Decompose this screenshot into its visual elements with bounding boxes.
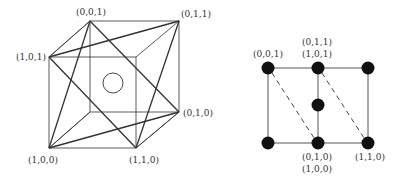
dot: [312, 137, 325, 150]
label-100: (1,0,0): [28, 155, 58, 165]
diagonal-line: [49, 21, 179, 57]
dot: [362, 137, 375, 150]
label-bottom-mid-2: (1,0,0): [302, 164, 332, 174]
label-010: (0,1,0): [183, 108, 213, 118]
cube-diagram: [49, 21, 179, 148]
dashed-diagonal: [322, 73, 364, 138]
diagonal-line: [49, 21, 90, 148]
label-011: (0,1,1): [181, 9, 211, 19]
label-top-mid-1: (0,1,1): [302, 37, 332, 47]
label-bottom-mid-1: (0,1,0): [302, 152, 332, 162]
dashed-diagonal: [272, 73, 314, 138]
label-101: (1,0,1): [16, 52, 46, 62]
diagonal-line: [90, 21, 179, 112]
dot: [262, 62, 275, 75]
center-circle: [103, 73, 123, 93]
label-top-left: (0,0,1): [253, 49, 283, 59]
label-001: (0,0,1): [76, 7, 106, 17]
dot: [362, 62, 375, 75]
diagonal-line: [49, 112, 179, 148]
dot: [312, 62, 325, 75]
diagram-canvas: (0,0,1) (0,1,1) (1,0,1) (0,1,0) (1,0,0) …: [0, 0, 404, 179]
label-110: (1,1,0): [129, 155, 159, 165]
label-top-mid-2: (1,0,1): [302, 49, 332, 59]
dot: [262, 137, 275, 150]
dot: [312, 99, 325, 112]
diagonal-line: [136, 21, 179, 148]
diagonal-line: [49, 57, 136, 148]
label-bottom-right: (1,1,0): [355, 152, 385, 162]
